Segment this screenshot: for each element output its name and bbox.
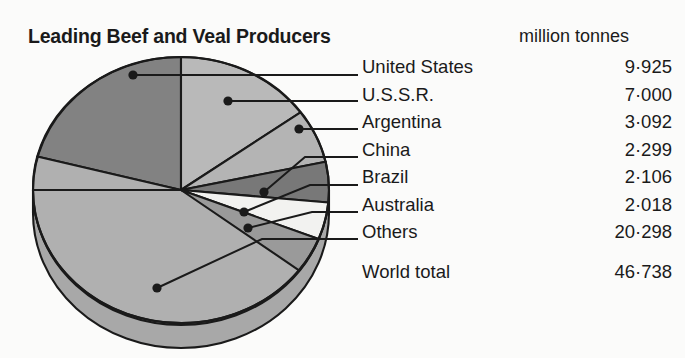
legend: United States 9·925 U.S.S.R. 7·000 Argen… [362, 56, 674, 288]
legend-row-china: China 2·299 [362, 139, 674, 167]
legend-label-world-total: World total [362, 261, 450, 283]
legend-value-others: 20·298 [614, 221, 674, 243]
leader-dot-argentina [294, 124, 303, 133]
leader-dot-china [259, 187, 268, 196]
legend-row-world-total: World total 46·738 [362, 261, 674, 289]
legend-label-others: Others [362, 221, 418, 243]
legend-row-australia: Australia 2·018 [362, 194, 674, 222]
pie-chart-figure: Leading Beef and Veal Producers million … [0, 0, 685, 358]
legend-label-ussr: U.S.S.R. [362, 84, 434, 106]
legend-value-united-states: 9·925 [625, 56, 674, 78]
leader-dot-united-states [128, 70, 137, 79]
legend-value-ussr: 7·000 [625, 84, 674, 106]
legend-row-ussr: U.S.S.R. 7·000 [362, 84, 674, 112]
legend-label-china: China [362, 139, 410, 161]
legend-value-argentina: 3·092 [625, 111, 674, 133]
legend-label-australia: Australia [362, 194, 434, 216]
legend-row-argentina: Argentina 3·092 [362, 111, 674, 139]
legend-label-united-states: United States [362, 56, 473, 78]
legend-row-brazil: Brazil 2·106 [362, 166, 674, 194]
legend-label-brazil: Brazil [362, 166, 408, 188]
legend-value-china: 2·299 [625, 139, 674, 161]
leader-dot-others [152, 283, 161, 292]
leader-dot-brazil [239, 207, 248, 216]
legend-value-brazil: 2·106 [625, 166, 674, 188]
legend-value-australia: 2·018 [625, 194, 674, 216]
leader-dot-ussr [223, 96, 232, 105]
leader-dot-australia [243, 223, 252, 232]
legend-label-argentina: Argentina [362, 111, 441, 133]
legend-row-united-states: United States 9·925 [362, 56, 674, 84]
legend-row-others: Others 20·298 [362, 221, 674, 249]
legend-value-world-total: 46·738 [614, 261, 674, 283]
